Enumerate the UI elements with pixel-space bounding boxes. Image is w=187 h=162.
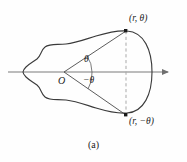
point-label-negative-angle: (r, −θ) — [129, 117, 154, 127]
point-marker-negative-angle — [124, 113, 127, 116]
figure-caption: (a) — [0, 139, 187, 150]
angle-label-negative: −θ — [83, 76, 94, 86]
radius-line-negative-angle — [64, 72, 126, 115]
point-marker-positive-angle — [124, 29, 127, 32]
polar-curve-figure: (r, θ) (r, −θ) O θ −θ (a) — [0, 0, 187, 162]
angle-label-positive: θ — [84, 55, 89, 65]
point-label-positive-angle: (r, θ) — [129, 14, 147, 24]
origin-label: O — [58, 76, 65, 86]
radius-line-positive-angle — [64, 31, 126, 72]
